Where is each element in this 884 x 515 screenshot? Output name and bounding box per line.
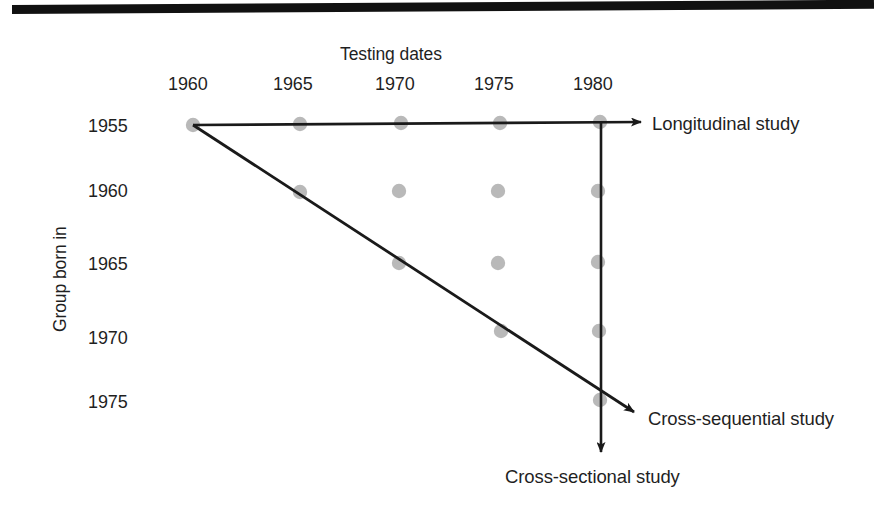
dot-grid	[186, 115, 607, 407]
dot-1960-1975	[491, 184, 505, 198]
design-matrix-graphic	[0, 0, 884, 515]
cross-sequential-arrow	[193, 125, 634, 412]
longitudinal-arrow	[193, 122, 641, 125]
dot-1965-1980	[591, 255, 605, 269]
figure-canvas: Testing dates 1960 1965 1970 1975 1980 G…	[0, 0, 884, 515]
dot-1970-1980	[592, 324, 606, 338]
dot-1960-1980	[591, 184, 605, 198]
dot-1960-1970	[392, 184, 406, 198]
dot-1965-1975	[491, 256, 505, 270]
